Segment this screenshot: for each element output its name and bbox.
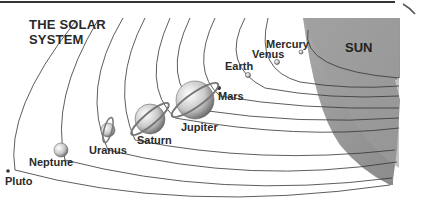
planet-label-pluto: Pluto — [5, 175, 33, 187]
planet-label-uranus: Uranus — [89, 144, 127, 156]
planet-label-earth: Earth — [225, 60, 253, 72]
planet-label-saturn: Saturn — [137, 134, 172, 146]
planet-label-mars: Mars — [218, 90, 244, 102]
sun-label: SUN — [345, 40, 372, 55]
diagram-title: THE SOLAR SYSTEM — [29, 17, 106, 47]
mercury-planet — [299, 50, 303, 54]
pluto-planet — [6, 169, 10, 173]
neptune-planet — [54, 143, 68, 157]
planet-label-venus: Venus — [252, 48, 284, 60]
venus-planet — [275, 60, 280, 65]
earth-planet — [246, 73, 251, 78]
solar-system-diagram: THE SOLAR SYSTEM SUN Mercury Venus Earth… — [0, 0, 421, 205]
jupiter-planet — [168, 78, 222, 122]
uranus-planet — [101, 116, 115, 143]
planet-label-neptune: Neptune — [29, 156, 73, 168]
planet-label-jupiter: Jupiter — [181, 121, 218, 133]
